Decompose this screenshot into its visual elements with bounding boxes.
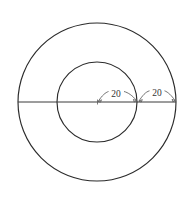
leader-arc-right-inner <box>124 92 137 101</box>
arrowhead-inner-left <box>98 100 102 102</box>
leader-arc-left-inner <box>99 92 109 102</box>
annulus-figure: 20 20 <box>0 0 190 219</box>
dimension-label-annular-gap: 20 <box>152 88 162 98</box>
diagram-canvas: 20 20 <box>0 0 190 219</box>
dimension-label-inner-radius: 20 <box>111 89 121 99</box>
leader-arc-right-gap <box>165 91 176 101</box>
dimension-annular-gap: 20 <box>139 88 175 102</box>
leader-arc-left-gap <box>139 91 150 101</box>
